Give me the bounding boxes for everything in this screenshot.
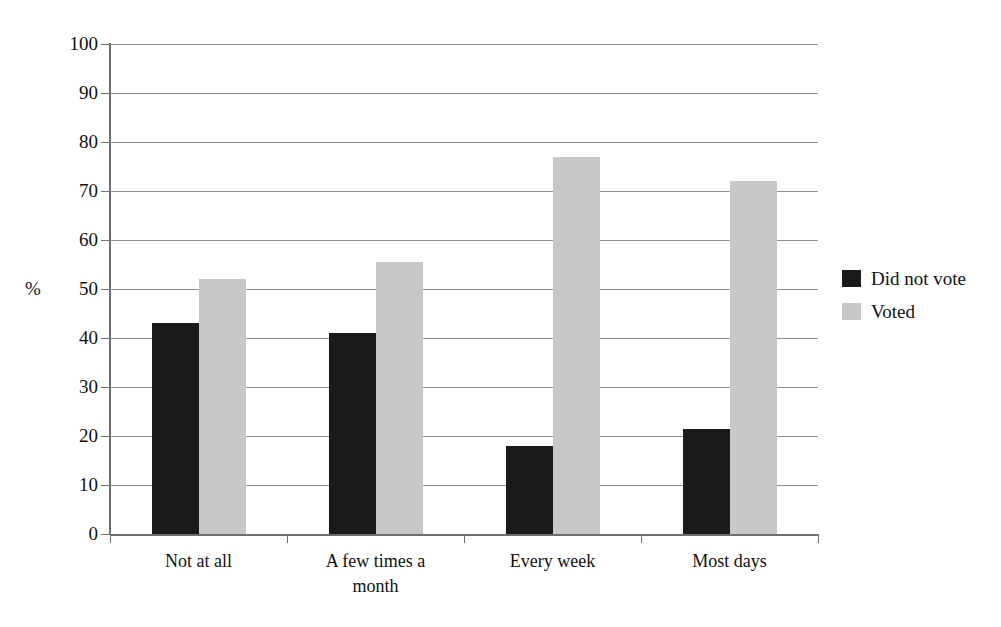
- legend-item: Voted: [842, 295, 997, 328]
- x-axis-tick-label-line: A few times a: [287, 549, 464, 574]
- bar: [329, 333, 376, 534]
- gridline: [110, 142, 818, 143]
- legend-item-label: Did not vote: [871, 269, 966, 288]
- y-axis-tick: [101, 142, 110, 143]
- legend: Did not voteVoted: [842, 262, 997, 328]
- y-axis-tick: [101, 534, 110, 535]
- bar: [683, 429, 730, 534]
- y-axis-tick: [101, 191, 110, 192]
- bar: [199, 279, 246, 534]
- gridline: [110, 191, 818, 192]
- y-axis-tick: [101, 338, 110, 339]
- x-axis-tick: [464, 534, 465, 543]
- x-axis-tick-label: Every week: [464, 549, 641, 574]
- bar: [730, 181, 777, 534]
- plot-area: [110, 44, 818, 534]
- y-axis-tick-label: 0: [38, 524, 98, 543]
- legend-swatch-icon: [842, 303, 861, 320]
- y-axis-tick: [101, 485, 110, 486]
- y-axis-tick-label: 10: [38, 475, 98, 494]
- x-axis-tick-label-line: Most days: [641, 549, 818, 574]
- y-axis-tick-label: 70: [38, 181, 98, 200]
- gridline: [110, 93, 818, 94]
- y-axis-tick-label: 20: [38, 426, 98, 445]
- bar-chart: % 1009080706050403020100 Not at allA few…: [0, 0, 1001, 627]
- gridline: [110, 44, 818, 45]
- y-axis-tick-label: 30: [38, 377, 98, 396]
- x-axis-tick: [641, 534, 642, 543]
- bar: [553, 157, 600, 534]
- legend-item: Did not vote: [842, 262, 997, 295]
- y-axis-tick-label: 100: [38, 34, 98, 53]
- legend-swatch-icon: [842, 270, 861, 287]
- x-axis-tick-label: Not at all: [110, 549, 287, 574]
- y-axis-tick: [101, 93, 110, 94]
- y-axis-tick: [101, 44, 110, 45]
- y-axis-tick: [101, 387, 110, 388]
- x-axis-tick-label-line: month: [287, 574, 464, 599]
- y-axis-tick-label: 40: [38, 328, 98, 347]
- bar: [376, 262, 423, 534]
- x-axis-tick-label: A few times amonth: [287, 549, 464, 599]
- x-axis-tick-label-line: Every week: [464, 549, 641, 574]
- x-axis-tick-label: Most days: [641, 549, 818, 574]
- y-axis-tick: [101, 289, 110, 290]
- y-axis-tick-label: 90: [38, 83, 98, 102]
- bar: [506, 446, 553, 534]
- y-axis-tick: [101, 240, 110, 241]
- x-axis-tick: [110, 534, 111, 543]
- x-axis-tick: [287, 534, 288, 543]
- y-axis-tick-label: 80: [38, 132, 98, 151]
- gridline: [110, 240, 818, 241]
- y-axis-tick: [101, 436, 110, 437]
- y-axis-tick-label: 60: [38, 230, 98, 249]
- y-axis-tick-label: 50: [38, 279, 98, 298]
- x-axis-tick-label-line: Not at all: [110, 549, 287, 574]
- x-axis-tick: [818, 534, 819, 543]
- bar: [152, 323, 199, 534]
- legend-item-label: Voted: [871, 302, 915, 321]
